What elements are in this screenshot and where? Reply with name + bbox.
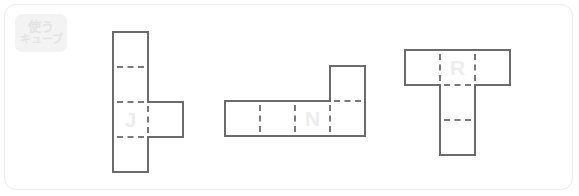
use-cube-badge-line-2: キューブ <box>20 34 63 46</box>
net-outline-edge <box>147 66 149 103</box>
net-face[interactable] <box>475 50 510 85</box>
net-fold-line <box>117 136 144 138</box>
net-outline-edge <box>112 31 114 68</box>
net-outline-edge <box>259 100 296 102</box>
net-fold-line <box>117 101 144 103</box>
net-face[interactable] <box>113 137 148 172</box>
net-outline-edge <box>112 136 114 173</box>
net-outline-edge <box>147 31 149 68</box>
net-outline-edge <box>112 101 114 138</box>
net-outline-edge <box>404 49 441 51</box>
net-face[interactable] <box>113 102 148 137</box>
net-outline-edge <box>112 66 114 103</box>
net-outline-edge <box>474 84 476 121</box>
net-outline-edge <box>439 84 441 121</box>
net-outline-edge <box>329 65 366 67</box>
net-outline-edge <box>224 135 261 137</box>
net-outline-edge <box>224 100 226 137</box>
net-fold-line <box>294 105 296 132</box>
net-outline-edge <box>294 100 331 102</box>
net-face[interactable] <box>405 50 440 85</box>
net-outline-edge <box>364 65 366 102</box>
net-fold-line <box>444 119 471 121</box>
net-outline-edge <box>439 119 441 156</box>
net-fold-line <box>147 106 149 133</box>
cube-net-j[interactable]: J <box>113 32 183 172</box>
net-outline-edge <box>364 100 366 137</box>
net-fold-line <box>474 54 476 81</box>
net-outline-edge <box>224 100 261 102</box>
net-face[interactable] <box>148 102 183 137</box>
net-face[interactable] <box>113 32 148 67</box>
cube-net-r[interactable]: R <box>405 50 510 155</box>
net-outline-edge <box>182 101 184 138</box>
net-fold-line <box>439 54 441 81</box>
net-face[interactable] <box>440 120 475 155</box>
net-outline-edge <box>509 49 511 86</box>
net-face[interactable] <box>330 66 365 101</box>
net-fold-line <box>329 105 331 132</box>
net-outline-edge <box>329 65 331 102</box>
net-face[interactable] <box>330 101 365 136</box>
net-outline-edge <box>439 49 476 51</box>
net-face[interactable] <box>295 101 330 136</box>
net-outline-edge <box>404 84 441 86</box>
net-outline-edge <box>329 135 366 137</box>
net-fold-line <box>444 84 471 86</box>
use-cube-badge[interactable]: 使う キューブ <box>15 14 67 52</box>
net-face[interactable] <box>440 50 475 85</box>
net-face[interactable] <box>440 85 475 120</box>
net-outline-edge <box>474 119 476 156</box>
net-outline-edge <box>112 31 149 33</box>
net-outline-edge <box>294 135 331 137</box>
net-outline-edge <box>404 49 406 86</box>
net-fold-line <box>334 100 361 102</box>
net-face[interactable] <box>113 67 148 102</box>
net-fold-line <box>117 66 144 68</box>
puzzle-canvas-frame: 使う キューブ J N R <box>4 4 573 190</box>
net-outline-edge <box>259 135 296 137</box>
net-outline-edge <box>439 154 476 156</box>
net-outline-edge <box>147 136 184 138</box>
net-outline-edge <box>474 84 511 86</box>
use-cube-badge-line-1: 使う <box>28 20 54 34</box>
net-face[interactable] <box>260 101 295 136</box>
net-outline-edge <box>474 49 511 51</box>
net-face[interactable] <box>225 101 260 136</box>
net-outline-edge <box>112 171 149 173</box>
net-outline-edge <box>147 136 149 173</box>
cube-net-n[interactable]: N <box>225 66 365 136</box>
net-fold-line <box>259 105 261 132</box>
net-outline-edge <box>147 101 184 103</box>
